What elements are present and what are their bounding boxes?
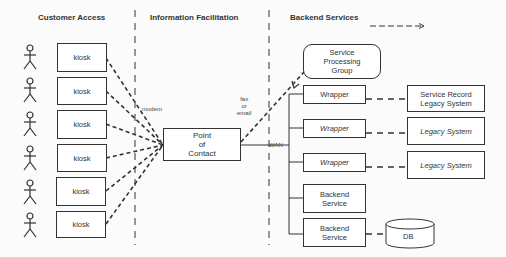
kiosk-box: kiosk (57, 144, 107, 172)
header-customer-access: Customer Access (38, 13, 105, 22)
service-processing-group-box: Service Processing Group (303, 44, 381, 79)
backend-service-box: Backend Service (303, 184, 366, 213)
legacy-system-box: Legacy System (407, 117, 485, 145)
kiosk-box: kiosk (57, 43, 107, 72)
legacy-system-box: Legacy System (407, 151, 485, 179)
header-backend-services: Backend Services (290, 13, 359, 22)
kiosk-box: kiosk (57, 110, 107, 139)
fax-or-email-label: fax or email (237, 96, 251, 117)
wrapper-box: Wrapper (303, 119, 366, 138)
kiosk-box: kiosk (56, 211, 106, 238)
user-icons (24, 45, 36, 237)
modem-label: modem (142, 106, 162, 113)
kiosk-box: kiosk (56, 177, 106, 206)
wrapper-box: Wrapper (303, 153, 366, 172)
point-of-contact-box: Point of Contact (163, 128, 241, 161)
wan-label: WAN (269, 142, 283, 149)
wrapper-box: Wrapper (303, 85, 366, 104)
database-label: DB (403, 232, 413, 241)
header-information-facilitation: Information Facilitation (150, 13, 238, 22)
kiosk-box: kiosk (57, 77, 107, 105)
backend-service-box: Backend Service (303, 218, 366, 247)
legacy-system-box: Service Record Legacy System (407, 85, 485, 112)
